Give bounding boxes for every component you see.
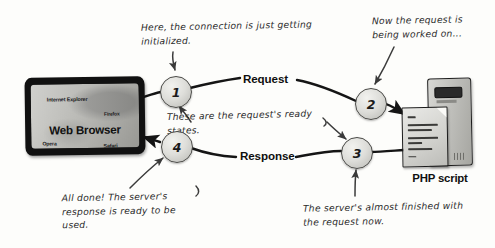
step-number-1: 1 (172, 85, 181, 100)
annotation-almost-finished: The server's almost finished with the re… (303, 198, 478, 228)
pointer-to-step1 (173, 52, 175, 70)
response-flow-label: Response (240, 149, 295, 162)
step-circle-1: 1 (160, 76, 192, 108)
annotation-ready-states: These are the request's ready states. (167, 106, 338, 137)
annotation-all-done: All done! The server's response is ready… (62, 189, 198, 232)
step-number-2: 2 (367, 97, 376, 112)
php-script-label: PHP script (398, 172, 482, 184)
step-circle-4: 4 (161, 131, 193, 163)
step-circle-3: 3 (341, 137, 373, 169)
annotation-connection-initializing: Here, the connection is just getting ini… (141, 17, 316, 47)
diagram-canvas: Internet Explorer Firefox Web Browser Op… (0, 0, 495, 248)
pointer-to-step3 (355, 170, 356, 196)
step-number-4: 4 (173, 140, 182, 155)
step-circle-2: 2 (355, 88, 387, 120)
pointer-to-step2 (375, 47, 394, 84)
step-number-3: 3 (353, 146, 362, 161)
pointer-to-step4 (130, 158, 163, 188)
annotation-request-working: Now the request is being worked on... (372, 12, 492, 41)
request-flow-label: Request (243, 72, 288, 85)
